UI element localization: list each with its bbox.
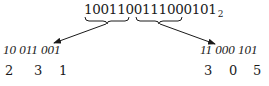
left-triplets: 10 011 001 xyxy=(3,42,61,58)
octal-digit: 3 xyxy=(204,63,212,78)
octal-digit: 1 xyxy=(59,63,67,78)
binary-to-octal-diagram: 10011001110001012 10 011 001 11 000 101 … xyxy=(0,0,269,86)
right-arrow xyxy=(160,24,215,44)
right-triplets: 11 000 101 xyxy=(200,42,258,58)
binary-digits: 1001100111000101 xyxy=(84,1,217,17)
octal-digit: 5 xyxy=(253,63,261,78)
base-subscript: 2 xyxy=(218,9,223,19)
binary-number: 10011001110001012 xyxy=(84,1,223,19)
octal-digit: 0 xyxy=(229,63,237,78)
octal-digit: 2 xyxy=(5,63,13,78)
left-arrow xyxy=(54,24,106,43)
octal-digit: 3 xyxy=(34,63,42,78)
